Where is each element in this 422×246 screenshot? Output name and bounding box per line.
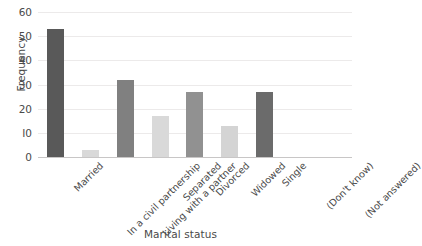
bar [47, 29, 64, 157]
bar [221, 126, 238, 157]
y-axis-tick-label: 20 [4, 104, 32, 114]
bar-slot [212, 12, 247, 157]
y-axis-tick-label: 60 [4, 7, 32, 17]
y-axis-tick-label: 40 [4, 55, 32, 65]
bar-slot [247, 12, 282, 157]
x-axis-title: Marital status [0, 228, 361, 240]
x-axis-tick-label: Living with a partner [160, 160, 238, 238]
bar [82, 150, 99, 157]
plot-area [38, 12, 352, 157]
bar-slot [282, 12, 317, 157]
bar-slot [108, 12, 143, 157]
bar-slot [143, 12, 178, 157]
x-axis-tick-label: (Don't know) [324, 160, 375, 211]
bar-series [38, 12, 352, 157]
bar-slot [73, 12, 108, 157]
x-axis-tick-label: Married [72, 160, 106, 194]
bar-slot [38, 12, 73, 157]
bar [117, 80, 134, 157]
bar [256, 92, 273, 157]
y-axis-tick-label: 50 [4, 31, 32, 41]
y-axis-tick-label: I0 [4, 128, 32, 138]
bar [186, 92, 203, 157]
y-axis-tick-label: 0 [4, 152, 32, 162]
bar-slot [317, 12, 352, 157]
y-axis-tick-label: 30 [4, 80, 32, 90]
bar-slot [178, 12, 213, 157]
x-axis-tick-labels: MarriedIn a civil partnershipLiving with… [38, 157, 352, 227]
bar [152, 116, 169, 157]
